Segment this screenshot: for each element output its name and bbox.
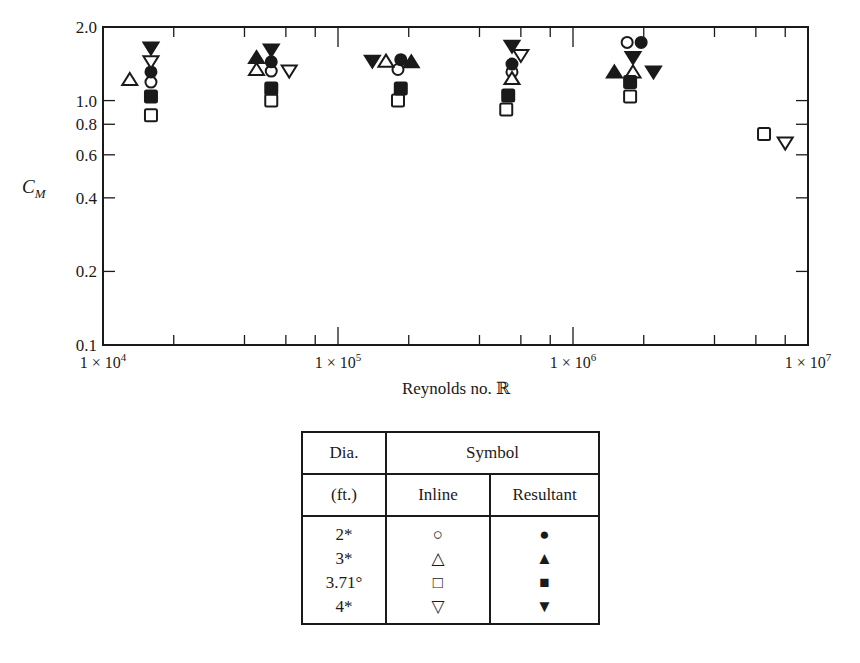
triangle-down-filled-marker — [264, 45, 279, 57]
legend-header-resultant: Resultant — [490, 474, 599, 516]
square-open-marker — [500, 103, 512, 115]
legend-dia-3: 3* — [303, 547, 385, 571]
square-filled-icon: ■ — [491, 571, 598, 595]
triangle-up-open-marker — [122, 73, 137, 85]
circle-filled-marker — [506, 59, 517, 70]
plot-frame — [103, 27, 808, 345]
triangle-down-filled-marker — [143, 43, 158, 55]
triangle-down-open-marker — [282, 66, 297, 78]
legend-dia-2: 2* — [303, 523, 385, 547]
square-filled-marker — [145, 90, 157, 102]
legend-header-dia: Dia. — [302, 432, 386, 474]
triangle-down-open-marker — [143, 56, 158, 68]
square-filled-marker — [624, 76, 636, 88]
legend-inline-column: ○ △ □ ▽ — [386, 516, 490, 624]
circle-filled-icon: ● — [491, 523, 598, 547]
legend-resultant-column: ● ▲ ■ ▼ — [490, 516, 599, 624]
cm-vs-reynolds-chart: 1 × 1041 × 1051 × 1061 × 1070.10.20.40.6… — [0, 0, 860, 420]
square-open-marker — [392, 95, 404, 107]
legend-header-symbol: Symbol — [386, 432, 599, 474]
circle-filled-marker — [636, 37, 647, 48]
triangle-up-open-icon: △ — [387, 547, 489, 571]
square-filled-marker — [265, 83, 277, 95]
square-open-marker — [758, 128, 770, 140]
square-filled-marker — [502, 89, 514, 101]
legend-dia-4: 4* — [303, 595, 385, 619]
triangle-up-filled-icon: ▲ — [491, 547, 598, 571]
triangle-up-filled-marker — [249, 51, 264, 63]
triangle-down-open-icon: ▽ — [387, 595, 489, 619]
legend-header-ft: (ft.) — [302, 474, 386, 516]
square-open-marker — [145, 109, 157, 121]
circle-open-icon: ○ — [387, 523, 489, 547]
y-tick-label: 0.8 — [76, 115, 97, 134]
x-tick-label: 1 × 106 — [550, 351, 597, 371]
y-tick-label: 1.0 — [76, 92, 97, 111]
y-axis-label: CM — [22, 176, 47, 201]
square-open-marker — [624, 90, 636, 102]
square-open-icon: □ — [387, 571, 489, 595]
triangle-up-filled-marker — [607, 65, 622, 77]
legend-header-inline: Inline — [386, 474, 490, 516]
triangle-up-open-marker — [378, 55, 393, 67]
triangle-down-filled-marker — [365, 56, 380, 68]
symbol-legend-table: Dia. Symbol (ft.) Inline Resultant 2* 3*… — [301, 431, 600, 625]
data-points — [122, 37, 792, 150]
legend-dia-3-71: 3.71° — [303, 571, 385, 595]
y-tick-label: 2.0 — [76, 18, 97, 37]
triangle-up-open-marker — [249, 63, 264, 75]
square-filled-marker — [395, 83, 407, 95]
circle-open-marker — [622, 37, 633, 48]
x-axis-label: Reynolds no. ℝ — [402, 379, 511, 398]
axis-ticks: 1 × 1041 × 1051 × 1061 × 1070.10.20.40.6… — [76, 18, 832, 371]
triangle-down-filled-marker — [625, 52, 640, 64]
y-tick-label: 0.1 — [76, 336, 97, 355]
y-tick-label: 0.6 — [76, 146, 97, 165]
square-open-marker — [265, 95, 277, 107]
triangle-down-filled-icon: ▼ — [491, 595, 598, 619]
x-tick-label: 1 × 107 — [785, 351, 832, 371]
triangle-down-filled-marker — [646, 66, 661, 78]
circle-filled-marker — [395, 54, 406, 65]
legend-dia-column: 2* 3* 3.71° 4* — [302, 516, 386, 624]
x-tick-label: 1 × 105 — [315, 351, 362, 371]
y-tick-label: 0.2 — [76, 262, 97, 281]
y-tick-label: 0.4 — [76, 189, 98, 208]
triangle-down-open-marker — [778, 138, 793, 150]
